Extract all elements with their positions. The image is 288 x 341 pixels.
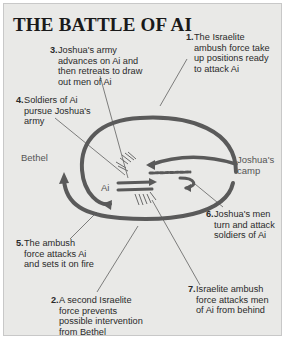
arrowhead-bethel-icon (59, 172, 69, 184)
step-1-label: 1. The Israelite ambush force take up po… (186, 32, 278, 74)
step-3-label: 3. Joshua's army advances on Ai and then… (50, 45, 148, 87)
step-number: 5. (16, 238, 24, 249)
leader-line-step-4 (55, 118, 125, 175)
place-ai: Ai (101, 182, 109, 193)
place-bethel: Bethel (21, 152, 48, 163)
step-2-label: 2. A second Israelite force prevents pos… (51, 295, 151, 337)
step-number: 6. (206, 209, 214, 220)
step-text: Joshua's men turn and attack soldiers of… (206, 209, 278, 241)
step-number: 3. (50, 45, 58, 56)
route-ai-arrow-2 (118, 189, 152, 190)
route-lines (64, 118, 236, 219)
step-text: Israelite ambush force attacks men of Ai… (188, 284, 278, 316)
step-text: The ambush force attacks Ai and sets it … (16, 238, 96, 270)
step-text: Soldiers of Ai pursue Joshua's army (16, 95, 91, 127)
leader-line-step-5 (70, 212, 97, 239)
route-ai-arrow-1 (118, 182, 152, 183)
arrowhead-inner-icon (146, 160, 155, 170)
step-7-label: 7. Israelite ambush force attacks men of… (188, 284, 278, 316)
leader-line-step-2 (97, 226, 138, 292)
step-number: 1. (186, 32, 194, 43)
step-4-label: 4. Soldiers of Ai pursue Joshua's army (16, 95, 91, 127)
arrowhead-turn-icon (184, 184, 191, 192)
step-text: A second Israelite force prevents possib… (51, 295, 151, 337)
arrowhead-ai-icon (102, 200, 112, 210)
route-retreat-dotted (150, 172, 190, 173)
step-text: Joshua's army advances on Ai and then re… (50, 45, 148, 87)
leader-line-step-1 (160, 59, 187, 106)
step-number: 4. (16, 95, 24, 106)
route-inner-line (150, 157, 236, 165)
step-number: 7. (188, 284, 196, 295)
step-6-label: 6. Joshua's men turn and attack soldiers… (206, 209, 278, 241)
place-joshuas-camp: Joshua's camp (237, 154, 277, 176)
arrowhead-ai-1-icon (149, 178, 157, 186)
step-5-label: 5. The ambush force attacks Ai and sets … (16, 238, 96, 270)
step-number: 2. (51, 295, 59, 306)
step-text: The Israelite ambush force take up posit… (186, 32, 278, 74)
